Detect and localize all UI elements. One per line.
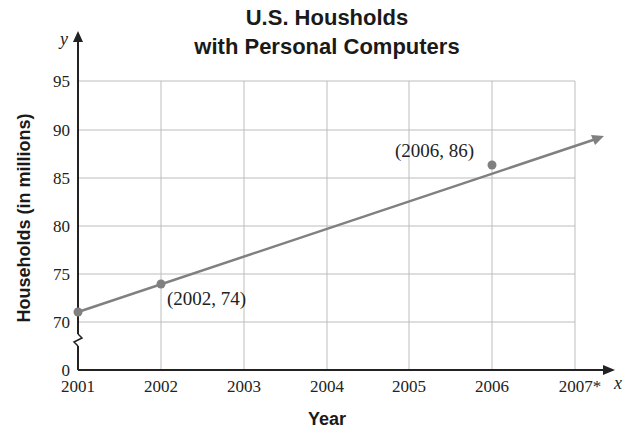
svg-text:2002: 2002 bbox=[144, 377, 178, 396]
x-axis bbox=[78, 365, 615, 375]
y-axis-title: Households (in millions) bbox=[14, 113, 34, 322]
y-tick-labels: 0 70 75 80 85 90 95 bbox=[53, 72, 70, 380]
y-axis-variable: y bbox=[58, 29, 68, 49]
chart-title-line-2: with Personal Computers bbox=[193, 34, 459, 59]
data-point bbox=[157, 280, 166, 289]
x-tick-labels: 2001 2002 2003 2004 2005 2006 2007* bbox=[61, 377, 601, 396]
svg-text:75: 75 bbox=[53, 265, 70, 284]
svg-text:2001: 2001 bbox=[61, 377, 95, 396]
svg-text:2006: 2006 bbox=[475, 377, 509, 396]
grid bbox=[78, 81, 575, 370]
svg-text:2003: 2003 bbox=[227, 377, 261, 396]
y-axis bbox=[73, 31, 83, 370]
chart-title-line-1: U.S. Housholds bbox=[246, 5, 409, 30]
svg-text:2005: 2005 bbox=[392, 377, 426, 396]
svg-text:90: 90 bbox=[53, 121, 70, 140]
x-axis-title: Year bbox=[308, 409, 346, 429]
annotation-2006: (2006, 86) bbox=[395, 140, 474, 162]
svg-text:95: 95 bbox=[53, 72, 70, 91]
svg-text:2007*: 2007* bbox=[559, 377, 602, 396]
line-chart: U.S. Housholds with Personal Computers y… bbox=[0, 0, 631, 437]
svg-text:85: 85 bbox=[53, 169, 70, 188]
svg-text:70: 70 bbox=[53, 313, 70, 332]
y-arrow-icon bbox=[73, 31, 83, 42]
x-axis-variable: x bbox=[613, 373, 622, 393]
data-point bbox=[74, 308, 83, 317]
axis-break-icon bbox=[74, 334, 82, 346]
annotation-2002: (2002, 74) bbox=[167, 288, 246, 310]
data-point bbox=[488, 161, 497, 170]
svg-text:80: 80 bbox=[53, 217, 70, 236]
svg-text:2004: 2004 bbox=[310, 377, 345, 396]
